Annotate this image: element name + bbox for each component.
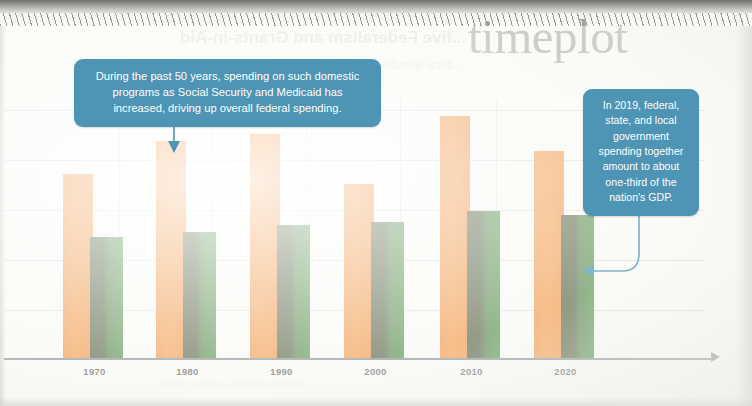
- bar-federal-1990: [250, 134, 280, 360]
- bar-federal-2010: [440, 116, 470, 360]
- scan-hatch-strip: [0, 13, 752, 26]
- bar-state-local-2000: [371, 222, 404, 360]
- ghost-page-title: ...tive Federalism and Grants-in-Aid: [128, 28, 518, 48]
- timeplot-logo: timeplot: [468, 12, 627, 61]
- bar-federal-1970: [63, 174, 93, 360]
- bar-state-local-1990: [277, 225, 310, 360]
- timeplot-chart-page: ...tive Federalism and Grants-in-Aid ...…: [0, 0, 752, 406]
- bar-federal-1980: [156, 141, 186, 360]
- scan-bottom-edge-shadow: [0, 397, 752, 406]
- bar-state-local-2010: [467, 211, 500, 360]
- bar-state-local-2020: [561, 215, 594, 360]
- x-tick-2000: 2000: [332, 366, 419, 377]
- bar-state-local-1980: [183, 232, 216, 360]
- x-axis-line: [4, 358, 712, 360]
- x-tick-1970: 1970: [51, 366, 138, 377]
- scan-top-shadow: [0, 0, 752, 14]
- x-tick-1980: 1980: [144, 366, 231, 377]
- x-tick-2020: 2020: [522, 366, 609, 377]
- bar-state-local-1970: [90, 237, 123, 360]
- x-tick-2010: 2010: [428, 366, 515, 377]
- ghost-body-line: ...categorical grants and block grants..…: [150, 378, 313, 389]
- x-axis-arrowhead-icon: [711, 352, 720, 362]
- callout-gdp-share[interactable]: In 2019, federal, state, and local gover…: [583, 89, 699, 216]
- bar-federal-2020: [534, 151, 564, 360]
- x-tick-1990: 1990: [238, 366, 325, 377]
- callout-federal-spending[interactable]: During the past 50 years, spending on su…: [74, 59, 381, 127]
- bar-federal-2000: [344, 184, 374, 360]
